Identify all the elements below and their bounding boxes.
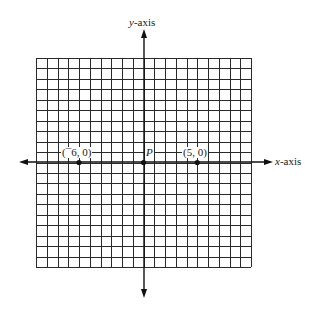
point-neg6 [76, 160, 81, 165]
x-axis-right-arrow-icon [264, 159, 273, 165]
point-label-p: P [145, 147, 154, 158]
coordinate-plane [0, 0, 312, 310]
y-axis-label: y-axis [128, 17, 156, 28]
point-origin [141, 160, 146, 165]
point-pos5 [195, 160, 200, 165]
x-axis-label: x-axis [274, 156, 302, 167]
point-label-pos5: (5, 0) [182, 147, 208, 158]
y-axis-up-arrow-icon [141, 29, 147, 38]
y-axis-down-arrow-icon [141, 289, 147, 298]
x-axis-left-arrow-icon [19, 159, 28, 165]
point-label-neg6: (¯6, 0) [61, 147, 92, 158]
